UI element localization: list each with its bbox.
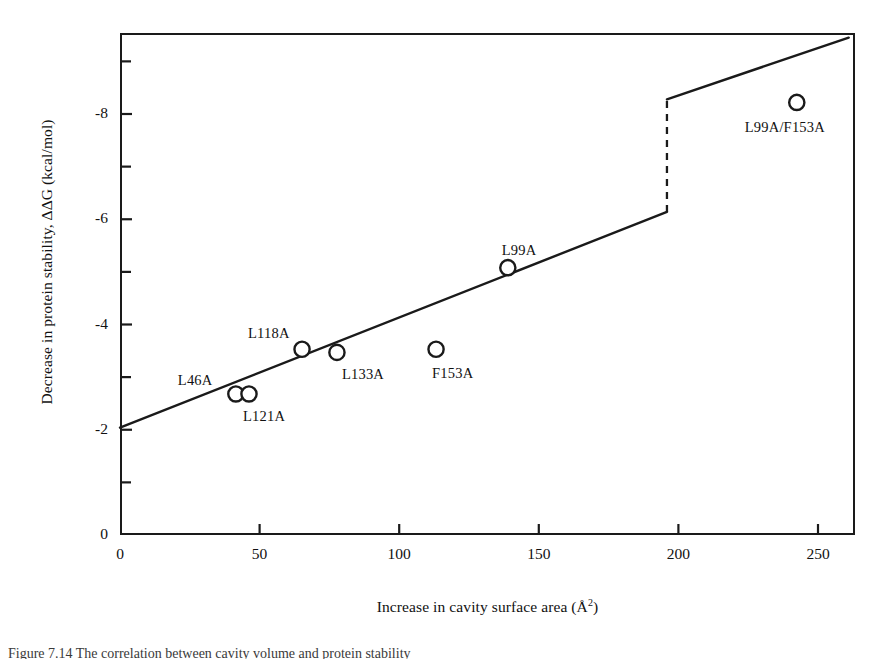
- x-axis-title-tail: ): [593, 598, 598, 615]
- point-label-l99a-f153a: L99A/F153A: [745, 119, 825, 136]
- x-tick-label: 250: [788, 545, 848, 563]
- point-label-l118a: L118A: [248, 325, 290, 342]
- x-tick-label: 0: [90, 545, 150, 563]
- x-tick-label: 100: [369, 545, 429, 563]
- y-tick-label: 0: [68, 525, 108, 543]
- x-axis-title: Increase in cavity surface area (Å2): [120, 597, 855, 616]
- point-label-f153a: F153A: [432, 365, 473, 382]
- figure-root: Decrease in protein stability, ΔΔG (kcal…: [0, 0, 875, 659]
- point-label-l133a: L133A: [342, 366, 384, 383]
- y-tick-label: -6: [68, 209, 108, 227]
- x-axis-title-text: Increase in cavity surface area (Å: [377, 598, 588, 615]
- x-tick-label: 150: [509, 545, 569, 563]
- y-tick-label: -2: [68, 420, 108, 438]
- y-axis-title: Decrease in protein stability, ΔΔG (kcal…: [38, 52, 56, 472]
- y-tick-label: -4: [68, 315, 108, 333]
- plot-frame: [120, 33, 855, 535]
- point-label-l99a: L99A: [502, 242, 537, 259]
- y-tick-label: -8: [68, 104, 108, 122]
- point-label-l46a: L46A: [178, 372, 213, 389]
- figure-caption: Figure 7.14 The correlation between cavi…: [8, 646, 868, 659]
- point-label-l121a: L121A: [243, 408, 285, 425]
- x-tick-label: 50: [230, 545, 290, 563]
- x-tick-label: 200: [648, 545, 708, 563]
